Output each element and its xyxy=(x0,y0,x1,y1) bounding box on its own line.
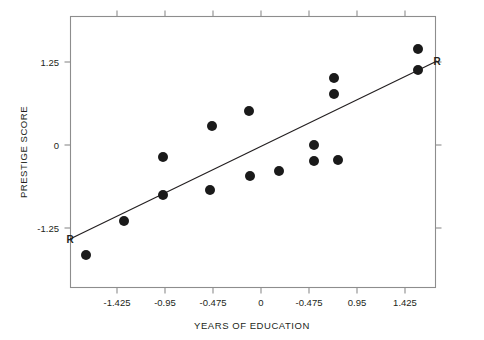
y-tick-label: -1.25 xyxy=(37,223,59,234)
data-point xyxy=(81,250,91,260)
data-point xyxy=(413,65,423,75)
data-point xyxy=(205,185,215,195)
y-tick-label: 0 xyxy=(54,140,59,151)
data-point xyxy=(119,216,129,226)
data-point xyxy=(245,171,255,181)
data-point xyxy=(309,140,319,150)
data-point xyxy=(413,44,423,54)
data-point xyxy=(333,155,343,165)
data-point xyxy=(329,89,339,99)
data-point xyxy=(158,152,168,162)
data-point xyxy=(329,73,339,83)
y-tick-label: 1.25 xyxy=(41,57,60,68)
figure-background xyxy=(0,0,484,340)
x-tick-label: 1.425 xyxy=(393,297,417,308)
scatter-plot-figure: -1.425 -0.95 -0.475 0 -0.475 0.95 1.425 … xyxy=(0,0,484,340)
y-axis-title: PRESTIGE SCORE xyxy=(18,106,29,198)
x-tick-label: -0.95 xyxy=(154,297,176,308)
data-point xyxy=(158,190,168,200)
data-point xyxy=(274,166,284,176)
x-tick-label: 0.95 xyxy=(348,297,367,308)
data-point xyxy=(309,156,319,166)
regression-endpoint-marker-right: R xyxy=(433,56,441,67)
x-axis-title: YEARS OF EDUCATION xyxy=(194,320,310,331)
data-point xyxy=(244,106,254,116)
x-tick-label: -0.475 xyxy=(200,297,227,308)
x-tick-label: 0 xyxy=(258,297,263,308)
data-point xyxy=(207,121,217,131)
x-tick-label: -1.425 xyxy=(104,297,131,308)
regression-endpoint-marker-left: R xyxy=(66,234,74,245)
x-tick-label: -0.475 xyxy=(296,297,323,308)
